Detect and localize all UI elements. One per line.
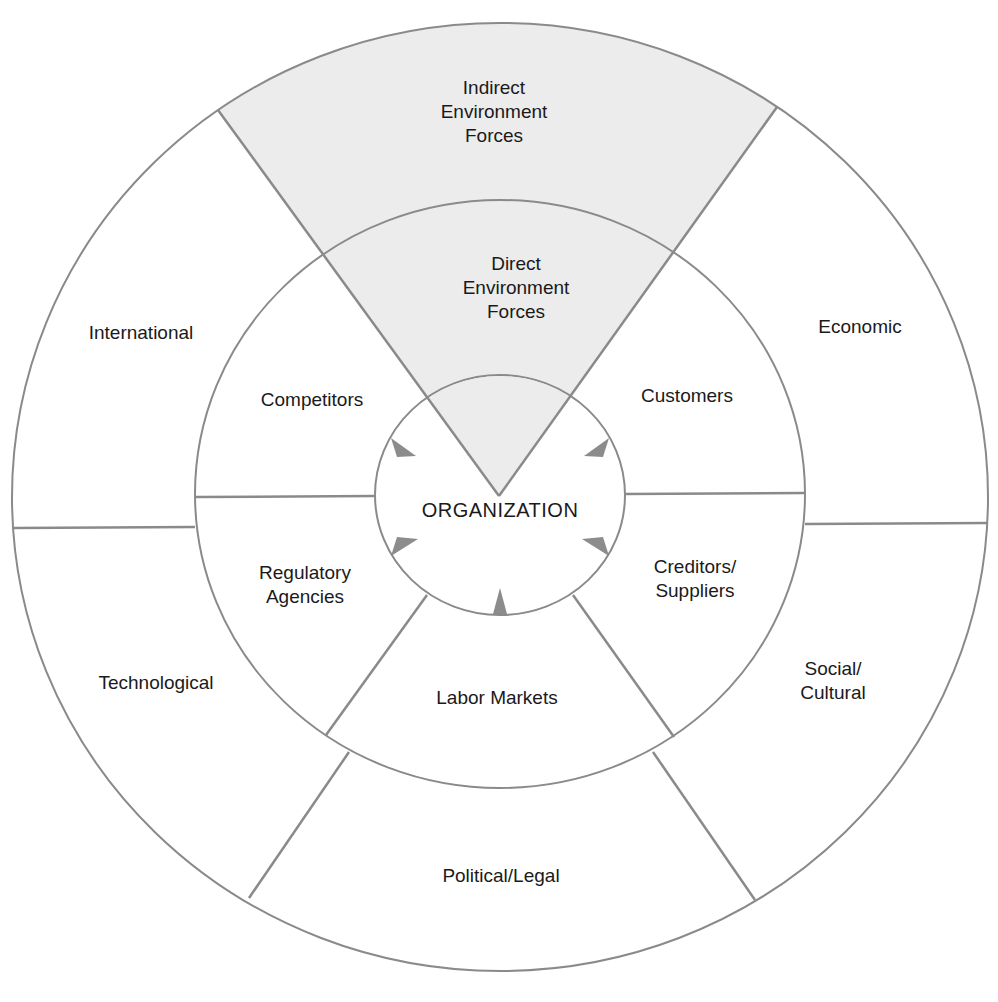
direct-force-customers: Customers xyxy=(641,384,733,408)
arrow-from-customers-icon xyxy=(584,438,609,457)
direct-force-labor-markets: Labor Markets xyxy=(436,686,557,710)
indirect-force-economic: Economic xyxy=(818,315,901,339)
direct-force-regulatory-agencies: Regulatory Agencies xyxy=(259,561,351,609)
indirect-forces-heading: Indirect Environment Forces xyxy=(441,76,548,148)
arrow-from-regulatory-icon xyxy=(391,537,418,556)
indirect-force-international: International xyxy=(89,321,194,345)
arrow-from-creditors-icon xyxy=(582,537,609,556)
indirect-force-technological: Technological xyxy=(98,671,213,695)
divider-regulatory-labor xyxy=(326,595,427,735)
indirect-force-social-cultural: Social/ Cultural xyxy=(800,657,865,705)
divider-competitors-regulatory xyxy=(195,496,375,497)
indirect-force-political-legal: Political/Legal xyxy=(442,864,559,888)
direct-forces-heading: Direct Environment Forces xyxy=(463,252,570,324)
divider-international-technological xyxy=(13,527,195,528)
organization-label: ORGANIZATION xyxy=(422,498,579,522)
direct-force-competitors: Competitors xyxy=(261,388,363,412)
direct-force-creditors-suppliers: Creditors/ Suppliers xyxy=(654,555,736,603)
divider-customers-creditors xyxy=(625,493,805,494)
arrow-from-competitors-icon xyxy=(391,438,416,457)
divider-political-social xyxy=(653,752,755,900)
arrow-from-labor-icon xyxy=(493,588,507,614)
divider-technological-political xyxy=(249,752,349,898)
divider-economic-social xyxy=(805,523,988,524)
divider-labor-creditors xyxy=(573,595,674,737)
